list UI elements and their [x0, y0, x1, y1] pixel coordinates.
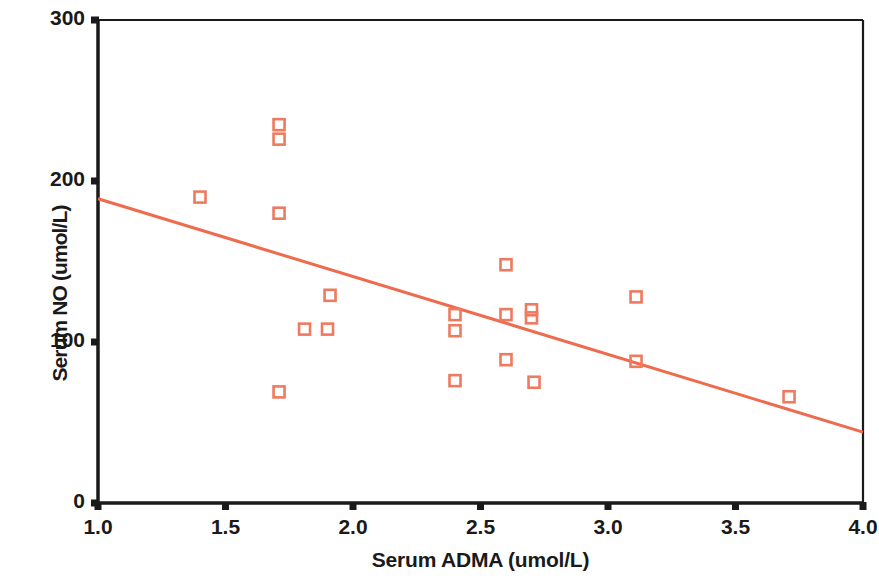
y-tick-mark — [91, 17, 99, 24]
x-tick-mark — [95, 502, 102, 510]
x-tick-mark — [605, 502, 612, 510]
x-tick-label: 3.5 — [696, 515, 776, 539]
plot-area — [0, 0, 879, 587]
y-tick-mark — [91, 339, 99, 346]
data-point-marker — [195, 192, 206, 203]
y-tick-label: 100 — [50, 328, 85, 352]
data-point-marker — [631, 291, 642, 302]
y-tick-mark — [91, 178, 99, 185]
data-point-marker — [274, 119, 285, 130]
y-tick-label: 0 — [73, 489, 85, 513]
data-point-marker — [274, 386, 285, 397]
data-point-marker — [784, 391, 795, 402]
data-point-marker — [450, 325, 461, 336]
data-point-marker — [322, 324, 333, 335]
regression-line — [98, 199, 863, 432]
x-tick-mark — [860, 502, 867, 510]
y-tick-label: 300 — [50, 6, 85, 30]
x-tick-label: 2.5 — [441, 515, 521, 539]
y-tick-label: 200 — [50, 167, 85, 191]
data-point-marker — [529, 377, 540, 388]
x-tick-label: 4.0 — [823, 515, 879, 539]
data-point-marker — [325, 290, 336, 301]
data-point-marker — [450, 375, 461, 386]
trendline — [98, 199, 863, 432]
x-tick-mark — [350, 502, 357, 510]
x-tick-label: 2.0 — [313, 515, 393, 539]
x-tick-mark — [222, 502, 229, 510]
scatter-chart-figure: Serum NO (umol/L) Serum ADMA (umol/L) 01… — [0, 0, 879, 587]
data-point-marker — [501, 309, 512, 320]
data-point-marker — [501, 354, 512, 365]
x-tick-mark — [477, 502, 484, 510]
x-tick-mark — [732, 502, 739, 510]
x-tick-label: 1.5 — [186, 515, 266, 539]
data-point-marker — [299, 324, 310, 335]
data-point-marker — [274, 134, 285, 145]
x-tick-label: 1.0 — [58, 515, 138, 539]
axes — [98, 20, 863, 503]
data-point-marker — [450, 309, 461, 320]
x-tick-label: 3.0 — [568, 515, 648, 539]
data-point-marker — [274, 208, 285, 219]
data-point-marker — [501, 259, 512, 270]
data-points — [195, 119, 795, 402]
